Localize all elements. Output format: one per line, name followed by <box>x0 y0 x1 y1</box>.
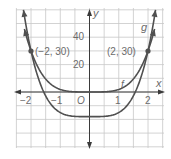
tick-label-y-40: 40 <box>73 31 85 42</box>
tick-label-x-2: 2 <box>145 95 151 106</box>
tick-label-x-1: 1 <box>115 95 121 106</box>
point-right-marker <box>145 48 150 53</box>
y-axis-down-arrow-icon <box>87 142 92 149</box>
point-left-label: (−2, 30) <box>35 46 70 57</box>
tick-label-y-20: 20 <box>73 59 85 70</box>
point-right-label: (2, 30) <box>107 46 136 57</box>
x-axis-left-arrow-icon <box>14 90 21 95</box>
arrowhead-icon <box>22 10 28 17</box>
arrowhead-icon <box>152 10 158 17</box>
curve-f-label: f <box>121 79 125 90</box>
tick-label-x-neg2: −2 <box>20 95 32 106</box>
y-axis <box>87 9 92 149</box>
origin-label: O <box>77 95 85 106</box>
x-axis-label: x <box>155 77 162 89</box>
x-axis-right-arrow-icon <box>158 90 165 95</box>
tick-label-x-neg1: −1 <box>51 95 63 106</box>
curve-g-label: g <box>141 21 148 33</box>
function-graph: y x O −2 −1 1 2 40 20 (−2, 30) (2, 30) f… <box>0 0 171 159</box>
point-left-marker <box>28 48 33 53</box>
y-axis-label: y <box>92 7 100 19</box>
